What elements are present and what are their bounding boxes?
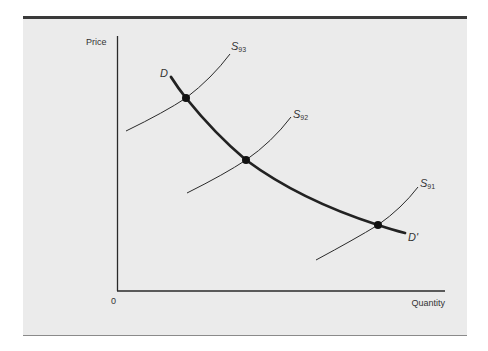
supply-demand-diagram: Price Quantity 0 D D' S93 S92 S91 (0, 0, 488, 351)
x-axis-label: Quantity (411, 298, 445, 308)
demand-end-label: D' (408, 231, 419, 243)
demand-start-label: D (160, 67, 168, 79)
supply-curve-93 (126, 54, 230, 131)
equilibrium-point-93 (182, 94, 190, 102)
supply-label-93: S93 (231, 40, 246, 53)
equilibrium-point-91 (374, 221, 382, 229)
supply-curve-91 (316, 187, 418, 260)
supply-label-92: S92 (293, 108, 308, 121)
demand-curve (171, 77, 405, 233)
origin-label: 0 (111, 296, 116, 306)
y-axis-label: Price (86, 37, 107, 47)
equilibrium-point-92 (242, 156, 250, 164)
supply-label-91: S91 (420, 177, 435, 190)
